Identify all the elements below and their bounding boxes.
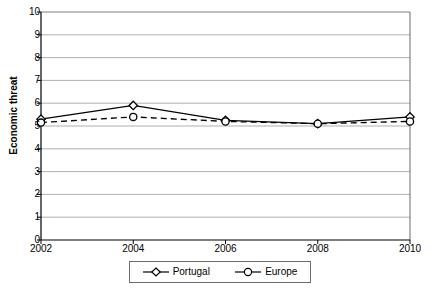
x-axis-tick-2002: 2002: [30, 243, 52, 254]
x-axis-tick-2008: 2008: [307, 243, 329, 254]
x-axis-tick-2010: 2010: [399, 243, 421, 254]
legend-item-europe: Europe: [235, 266, 297, 278]
chart-legend: Portugal Europe: [129, 261, 311, 283]
legend-item-portugal: Portugal: [143, 266, 210, 278]
x-axis-tick-labels: 20022004200620082010: [0, 0, 434, 270]
legend-label-portugal: Portugal: [173, 267, 210, 277]
legend-label-europe: Europe: [265, 267, 297, 277]
legend-key-diamond-icon: [143, 266, 169, 278]
x-axis-tick-2006: 2006: [214, 243, 236, 254]
legend-key-circle-icon: [235, 266, 261, 278]
economic-threat-line-chart: Economic threat 012345678910 20022004200…: [0, 0, 434, 290]
x-axis-tick-2004: 2004: [122, 243, 144, 254]
